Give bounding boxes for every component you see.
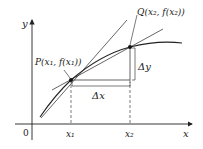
secant-tangent-diagram: y x 0 x₁ x₂ P(x₁, f(x₁)) Q(x₂, f(x₂)) Δx… xyxy=(0,0,203,149)
point-p xyxy=(69,78,73,82)
q-pointer xyxy=(130,15,137,45)
point-p-label: P(x₁, f(x₁)) xyxy=(34,57,82,67)
function-curve xyxy=(40,42,182,117)
tangent-line xyxy=(41,20,127,118)
dy-label: Δy xyxy=(137,61,151,72)
origin-label: 0 xyxy=(23,128,29,138)
dx-label: Δx xyxy=(91,90,105,101)
dx-brace xyxy=(72,82,130,86)
dy-brace xyxy=(132,48,135,80)
diagram-canvas: y x 0 x₁ x₂ P(x₁, f(x₁)) Q(x₂, f(x₂)) Δx… xyxy=(0,0,203,149)
p-pointer xyxy=(64,70,70,78)
x2-tick-label: x₂ xyxy=(125,129,134,139)
point-q-label: Q(x₂, f(x₂)) xyxy=(137,7,185,17)
x1-tick-label: x₁ xyxy=(66,129,75,139)
point-q xyxy=(128,45,132,49)
y-axis-label: y xyxy=(21,18,28,29)
x-axis-label: x xyxy=(183,128,189,139)
